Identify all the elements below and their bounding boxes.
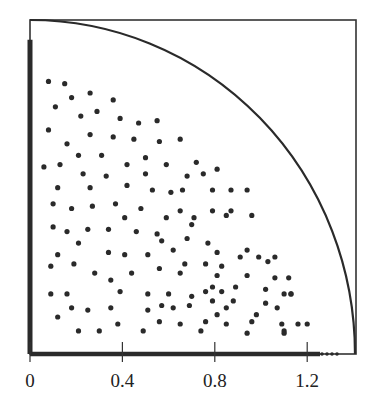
data-point xyxy=(104,174,109,179)
data-point xyxy=(145,308,150,313)
data-point xyxy=(48,291,53,296)
data-point xyxy=(210,208,215,213)
data-point xyxy=(238,254,243,259)
data-point xyxy=(203,261,208,266)
data-points xyxy=(41,79,310,336)
data-point xyxy=(124,162,129,167)
data-point xyxy=(224,305,229,310)
data-point xyxy=(111,134,116,139)
data-point xyxy=(157,319,162,324)
data-point xyxy=(178,137,183,142)
data-point xyxy=(64,141,69,146)
axis-point xyxy=(320,352,324,356)
data-point xyxy=(69,305,74,310)
data-point xyxy=(134,229,139,234)
data-point xyxy=(263,301,268,306)
data-point xyxy=(282,291,287,296)
data-point xyxy=(286,275,291,280)
data-point xyxy=(51,201,56,206)
data-point xyxy=(256,254,261,259)
axis-point xyxy=(325,352,329,356)
data-point xyxy=(288,291,293,296)
data-point xyxy=(62,81,67,86)
data-point xyxy=(69,206,74,211)
data-point xyxy=(76,241,81,246)
data-point xyxy=(81,171,86,176)
x-tick-label: 0 xyxy=(25,370,35,391)
data-point xyxy=(150,187,155,192)
data-point xyxy=(272,275,277,280)
axis-point-rows xyxy=(30,40,339,356)
data-point xyxy=(97,328,102,333)
data-point xyxy=(46,127,51,132)
plot-border xyxy=(30,20,356,354)
data-point xyxy=(245,273,250,278)
data-point xyxy=(85,227,90,232)
data-point xyxy=(185,174,190,179)
data-point xyxy=(210,298,215,303)
data-point xyxy=(118,289,123,294)
data-point xyxy=(88,90,93,95)
data-point xyxy=(106,250,111,255)
data-point xyxy=(210,284,215,289)
data-point xyxy=(272,254,277,259)
data-point xyxy=(194,160,199,165)
data-point xyxy=(164,162,169,167)
data-point xyxy=(55,185,60,190)
data-point xyxy=(99,153,104,158)
data-point xyxy=(115,321,120,326)
data-point xyxy=(129,271,134,276)
data-point xyxy=(157,266,162,271)
data-point xyxy=(198,328,203,333)
data-point xyxy=(166,291,171,296)
data-point xyxy=(111,97,116,102)
data-point xyxy=(159,303,164,308)
data-point xyxy=(205,241,210,246)
data-point xyxy=(245,248,250,253)
data-point xyxy=(55,314,60,319)
data-point xyxy=(305,321,310,326)
data-point xyxy=(185,236,190,241)
data-point xyxy=(143,171,148,176)
data-point xyxy=(145,291,150,296)
data-point xyxy=(228,208,233,213)
data-point xyxy=(85,308,90,313)
data-point xyxy=(203,289,208,294)
data-point xyxy=(136,120,141,125)
data-point xyxy=(51,224,56,229)
data-point xyxy=(219,289,224,294)
data-point xyxy=(245,331,250,336)
data-point xyxy=(215,250,220,255)
data-point xyxy=(124,183,129,188)
data-point xyxy=(245,187,250,192)
x-tick-label: 0.4 xyxy=(111,370,135,391)
data-point xyxy=(254,312,259,317)
data-point xyxy=(157,139,162,144)
data-point xyxy=(231,298,236,303)
data-point xyxy=(155,231,160,236)
data-point xyxy=(92,271,97,276)
data-point xyxy=(48,264,53,269)
data-point xyxy=(282,331,287,336)
data-point xyxy=(191,215,196,220)
data-point xyxy=(131,137,136,142)
data-point xyxy=(76,153,81,158)
data-point xyxy=(106,227,111,232)
data-point xyxy=(180,187,185,192)
data-point xyxy=(41,164,46,169)
data-point xyxy=(138,206,143,211)
data-point xyxy=(64,229,69,234)
data-point xyxy=(187,303,192,308)
data-point xyxy=(46,79,51,84)
data-point xyxy=(71,261,76,266)
data-point xyxy=(219,264,224,269)
data-point xyxy=(143,155,148,160)
data-point xyxy=(164,215,169,220)
data-point xyxy=(159,238,164,243)
data-point xyxy=(265,259,270,264)
data-point xyxy=(210,187,215,192)
data-point xyxy=(171,305,176,310)
data-point xyxy=(90,204,95,209)
data-point xyxy=(263,287,268,292)
data-point xyxy=(78,114,83,119)
